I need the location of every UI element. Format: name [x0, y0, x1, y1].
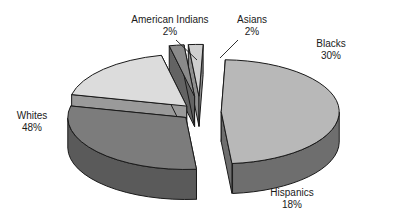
slice-label-american-indians-value: 2% [118, 26, 222, 38]
pie-slices-group [68, 44, 339, 199]
slice-label-asians-name: Asians [222, 14, 282, 26]
slice-label-whites: Whites 48% [4, 110, 60, 134]
slice-label-blacks-name: Blacks [300, 38, 362, 50]
slice-label-hispanics-value: 18% [252, 199, 332, 211]
pie-chart-figure: American Indians 2% Asians 2% Blacks 30%… [0, 0, 396, 218]
slice-label-asians-value: 2% [222, 26, 282, 38]
slice-label-blacks-value: 30% [300, 50, 362, 62]
slice-label-asians: Asians 2% [222, 14, 282, 38]
asians-leader [220, 40, 238, 58]
slice-label-american-indians: American Indians 2% [118, 14, 222, 38]
slice-label-american-indians-name: American Indians [118, 14, 222, 26]
slice-label-whites-value: 48% [4, 122, 60, 134]
slice-label-hispanics-name: Hispanics [252, 187, 332, 199]
slice-label-blacks: Blacks 30% [300, 38, 362, 62]
slice-label-hispanics: Hispanics 18% [252, 187, 332, 211]
slice-label-whites-name: Whites [4, 110, 60, 122]
